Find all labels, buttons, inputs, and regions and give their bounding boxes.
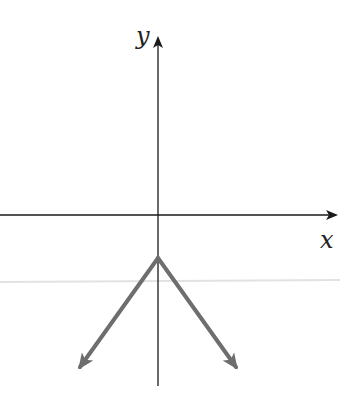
y-axis-label: y (136, 22, 150, 50)
scan-artifact-line (0, 280, 340, 282)
graph-svg (0, 0, 340, 418)
x-axis-label: x (320, 226, 334, 254)
coordinate-plane: y x (0, 0, 340, 418)
graph-right-ray (158, 258, 236, 367)
graph-left-ray (80, 258, 158, 367)
